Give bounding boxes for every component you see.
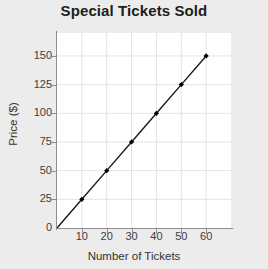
y-tick-label: 25 xyxy=(40,193,52,204)
y-tick-mark xyxy=(52,113,57,114)
x-tick-mark xyxy=(156,229,157,234)
x-tick-mark xyxy=(107,229,108,234)
y-axis-title: Price ($) xyxy=(7,84,19,164)
chart-figure: Special Tickets Sold 0255075100125150 10… xyxy=(0,0,268,269)
y-tick-label: 50 xyxy=(40,165,52,176)
x-tick-mark xyxy=(181,229,182,234)
y-tick-mark xyxy=(52,142,57,143)
x-tick-mark xyxy=(206,229,207,234)
y-tick-label: 75 xyxy=(40,136,52,147)
y-tick-label: 125 xyxy=(34,79,52,90)
y-tick-label: 100 xyxy=(34,107,52,118)
plot-area xyxy=(57,33,231,228)
y-tick-mark xyxy=(52,171,57,172)
x-tick-mark xyxy=(132,229,133,234)
y-tick-mark xyxy=(52,199,57,200)
y-tick-mark xyxy=(52,85,57,86)
y-tick-mark xyxy=(52,56,57,57)
x-axis-title: Number of Tickets xyxy=(0,250,268,262)
x-tick-mark xyxy=(82,229,83,234)
y-tick-label: 0 xyxy=(46,222,52,233)
chart-title: Special Tickets Sold xyxy=(0,2,268,19)
y-tick-label: 150 xyxy=(34,50,52,61)
data-series-line xyxy=(57,33,231,228)
